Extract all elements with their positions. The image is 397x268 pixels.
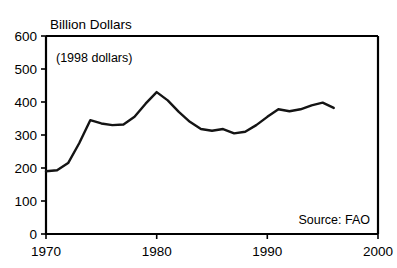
y-tick-label-200: 200 bbox=[14, 161, 37, 176]
plot-frame bbox=[46, 36, 378, 234]
y-tick-labels: 600 500 400 300 200 100 0 bbox=[14, 29, 37, 242]
source-note: Source: FAO bbox=[298, 213, 370, 227]
y-axis-title: Billion Dollars bbox=[50, 17, 132, 32]
x-tick-label-1990: 1990 bbox=[252, 244, 282, 259]
x-tick-label-1980: 1980 bbox=[142, 244, 172, 259]
x-tick-label-1970: 1970 bbox=[31, 244, 61, 259]
y-tick-label-500: 500 bbox=[14, 62, 37, 77]
in-plot-note: (1998 dollars) bbox=[56, 51, 132, 65]
x-tick-labels: 1970 1980 1990 2000 bbox=[31, 244, 393, 259]
chart-figure: 600 500 400 300 200 100 0 1970 1980 1990… bbox=[0, 0, 397, 268]
y-tick-label-100: 100 bbox=[14, 194, 37, 209]
y-tick-label-400: 400 bbox=[14, 95, 37, 110]
line-chart: 600 500 400 300 200 100 0 1970 1980 1990… bbox=[0, 0, 397, 268]
chart-axes bbox=[46, 36, 378, 234]
y-tick-label-300: 300 bbox=[14, 128, 37, 143]
x-tick-label-2000: 2000 bbox=[363, 244, 393, 259]
y-tick-label-600: 600 bbox=[14, 29, 37, 44]
data-series-line bbox=[46, 92, 334, 171]
y-tick-label-0: 0 bbox=[29, 227, 37, 242]
